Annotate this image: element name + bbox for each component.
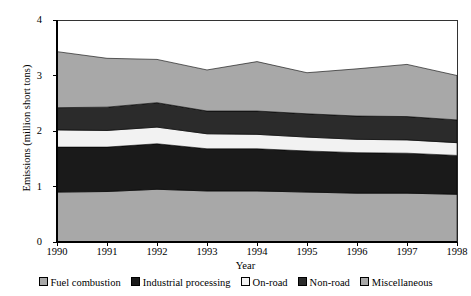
area-series-group xyxy=(57,52,457,242)
x-tick-label-1998: 1998 xyxy=(437,246,471,258)
gray-swatch xyxy=(39,277,48,286)
x-axis-title-text: Year xyxy=(236,260,255,271)
area-series-fuel-combustion xyxy=(57,189,457,242)
legend-entry-on-road[interactable]: On-road xyxy=(241,277,288,288)
x-tick-label-1993: 1993 xyxy=(187,246,227,258)
legend-entry-miscellaneous[interactable]: Miscellaneous xyxy=(360,277,433,288)
legend-label: Non-road xyxy=(310,277,350,288)
x-tick-label-1996: 1996 xyxy=(337,246,377,258)
legend-entry-non-road[interactable]: Non-road xyxy=(298,277,350,288)
stacked-area-chart: Emissions (million short tons) 01234 199… xyxy=(0,0,471,296)
black-swatch xyxy=(298,277,307,286)
legend-label: Miscellaneous xyxy=(372,277,433,288)
chart-legend: Fuel combustionIndustrial processingOn-r… xyxy=(0,277,471,288)
legend-entry-fuel-combustion[interactable]: Fuel combustion xyxy=(39,277,121,288)
black-swatch xyxy=(131,277,140,286)
legend-label: Fuel combustion xyxy=(51,277,121,288)
legend-entry-industrial-processing[interactable]: Industrial processing xyxy=(131,277,231,288)
x-tick-label-1997: 1997 xyxy=(387,246,427,258)
x-axis-title: Year xyxy=(0,260,471,271)
x-tick-label-1991: 1991 xyxy=(87,246,127,258)
x-tick-label-1992: 1992 xyxy=(137,246,177,258)
x-tick-label-1990: 1990 xyxy=(37,246,77,258)
x-axis-tick-labels: 199019911992199319941995199619971998 xyxy=(0,246,471,260)
legend-label: On-road xyxy=(253,277,288,288)
x-tick-label-1995: 1995 xyxy=(287,246,327,258)
gray-swatch xyxy=(360,277,369,286)
legend-label: Industrial processing xyxy=(143,277,231,288)
x-tick-label-1994: 1994 xyxy=(237,246,277,258)
white-swatch xyxy=(241,277,250,286)
